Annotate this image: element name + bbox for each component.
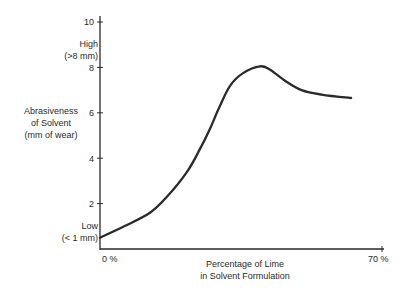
x-axis-title-line1: Percentage of Lime bbox=[150, 258, 340, 270]
y-axis-title-line2: of Solvent bbox=[10, 117, 92, 129]
y-axis-title-line3: (mm of wear) bbox=[10, 129, 92, 141]
y-tick-label-2: 2 bbox=[80, 199, 94, 209]
low-range: (< 1 mm) bbox=[62, 232, 98, 244]
chart-canvas bbox=[0, 0, 407, 291]
y-tick-label-4: 4 bbox=[80, 154, 94, 164]
y-tick-label-10: 10 bbox=[80, 17, 94, 27]
low-label: Low bbox=[62, 220, 98, 232]
y-axis-title: Abrasiveness of Solvent (mm of wear) bbox=[10, 105, 92, 141]
x-tick-label-70: 70 % bbox=[368, 254, 389, 264]
x-axis-title: Percentage of Lime in Solvent Formulatio… bbox=[150, 258, 340, 282]
y-tick-label-8: 8 bbox=[80, 63, 94, 73]
y-axis-title-line1: Abrasiveness bbox=[10, 105, 92, 117]
low-annotation: Low (< 1 mm) bbox=[62, 220, 98, 244]
abrasiveness-curve bbox=[100, 66, 351, 238]
x-tick-label-0: 0 % bbox=[102, 254, 118, 264]
high-annotation: High (>8 mm) bbox=[64, 38, 98, 62]
high-label: High bbox=[64, 38, 98, 50]
x-axis-title-line2: in Solvent Formulation bbox=[150, 270, 340, 282]
high-range: (>8 mm) bbox=[64, 50, 98, 62]
